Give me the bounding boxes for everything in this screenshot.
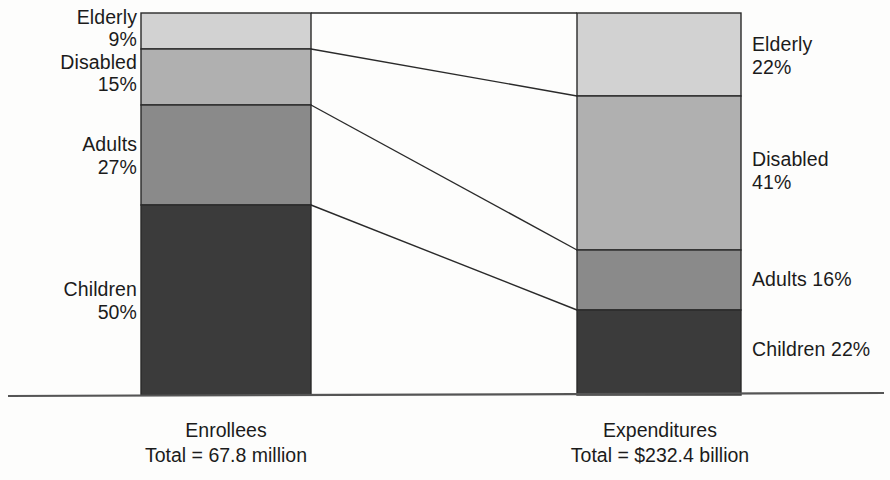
bar-expenditures[interactable]: [577, 13, 741, 395]
label-expenditures-adults: Adults 16%: [752, 268, 852, 291]
segment-enrollees-disabled[interactable]: [141, 49, 311, 105]
label-expenditures-elderly-percent: 22%: [752, 56, 791, 79]
caption-enrollees-title: Enrollees: [185, 419, 266, 441]
label-enrollees-disabled-name: Disabled: [0, 51, 137, 74]
caption-enrollees-total: Total = 67.8 million: [116, 443, 336, 468]
label-expenditures-elderly-name: Elderly: [752, 33, 812, 56]
segment-expenditures-children[interactable]: [577, 310, 741, 395]
label-enrollees-elderly-name: Elderly: [0, 6, 137, 29]
segment-enrollees-adults[interactable]: [141, 105, 311, 205]
segment-expenditures-elderly[interactable]: [577, 13, 741, 96]
label-enrollees-elderly-percent: 9%: [0, 28, 137, 51]
segment-enrollees-elderly[interactable]: [141, 13, 311, 49]
label-enrollees-children-percent: 50%: [0, 301, 137, 324]
label-enrollees-children-name: Children: [0, 278, 137, 301]
segment-expenditures-disabled[interactable]: [577, 96, 741, 250]
stacked-bar-chart: Elderly 9% Disabled 15% Adults 27% Child…: [0, 0, 890, 480]
connector-elderly-disabled: [311, 49, 577, 96]
caption-expenditures-total: Total = $232.4 billion: [545, 443, 775, 468]
connector-disabled-adults: [311, 105, 577, 250]
baseline-axis: [8, 393, 884, 396]
connector-lines: [311, 13, 577, 310]
caption-expenditures: Expenditures Total = $232.4 billion: [545, 418, 775, 468]
bar-enrollees[interactable]: [141, 13, 311, 395]
caption-expenditures-title: Expenditures: [603, 419, 717, 441]
label-expenditures-children: Children 22%: [752, 338, 870, 361]
label-expenditures-disabled-name: Disabled: [752, 148, 829, 171]
caption-enrollees: Enrollees Total = 67.8 million: [116, 418, 336, 468]
label-enrollees-adults-name: Adults: [0, 133, 137, 156]
segment-enrollees-children[interactable]: [141, 205, 311, 395]
connector-adults-children: [311, 205, 577, 310]
segment-expenditures-adults[interactable]: [577, 250, 741, 310]
label-enrollees-disabled-percent: 15%: [0, 73, 137, 96]
label-enrollees-adults-percent: 27%: [0, 156, 137, 179]
label-expenditures-disabled-percent: 41%: [752, 171, 791, 194]
